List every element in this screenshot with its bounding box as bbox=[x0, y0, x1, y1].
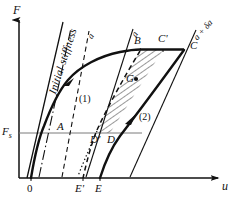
point-label-C: C bbox=[190, 40, 197, 51]
point-label-B: B bbox=[134, 35, 141, 46]
path-2-label: (2) bbox=[139, 112, 151, 122]
point-label-C-prime: C' bbox=[158, 33, 168, 44]
point-label-D: D bbox=[107, 134, 115, 145]
path-1-label: (1) bbox=[79, 94, 91, 104]
force-displacement-diagram: F u Fs 0 Initial stiffness a a a + δa (1… bbox=[0, 0, 237, 201]
loading-curve bbox=[31, 50, 140, 179]
point-label-D-prime: D' bbox=[90, 134, 100, 145]
initial-stiffness-line bbox=[27, 22, 63, 178]
x-axis-label: u bbox=[222, 180, 228, 192]
fs-tick-subscript: s bbox=[9, 131, 12, 140]
path-2-direction-arrow bbox=[125, 114, 136, 125]
point-G-marker bbox=[134, 77, 138, 81]
point-label-E: E bbox=[95, 183, 102, 194]
point-label-G: G bbox=[126, 73, 134, 84]
fs-tick-base: F bbox=[2, 125, 9, 137]
point-label-A: A bbox=[57, 121, 64, 132]
origin-label: 0 bbox=[27, 183, 33, 194]
y-axis-label: F bbox=[13, 4, 20, 16]
fs-tick-label: Fs bbox=[2, 126, 12, 140]
point-label-E-prime: E' bbox=[75, 183, 84, 194]
